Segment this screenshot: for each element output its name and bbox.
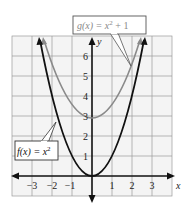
x-tick-label: −1 (65, 180, 76, 191)
x-tick-label: 1 (110, 180, 115, 191)
y-tick-label: 1 (83, 151, 88, 162)
y-tick-label: 3 (83, 111, 88, 122)
y-tick-label: 6 (83, 51, 88, 62)
parabola-chart: −3 −2 −1 1 2 3 1 2 3 4 5 6 x y f(x) = x2… (0, 0, 186, 207)
x-tick-label: 3 (150, 180, 155, 191)
f-label: f(x) = x2 (17, 145, 51, 158)
y-tick-label: 2 (83, 131, 88, 142)
x-axis-label: x (175, 180, 181, 191)
y-tick-label: 4 (83, 91, 88, 102)
g-label: g(x) = x2 + 1 (77, 19, 128, 32)
x-tick-label: −2 (47, 180, 58, 191)
y-tick-label: 5 (83, 71, 88, 82)
x-tick-label: −3 (27, 180, 38, 191)
x-tick-label: 2 (130, 180, 135, 191)
y-axis-label: y (96, 36, 102, 47)
